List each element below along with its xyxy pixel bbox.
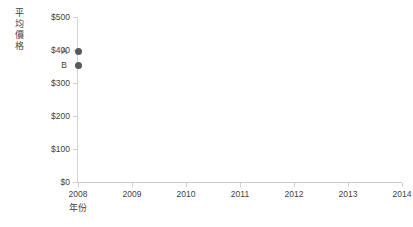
x-axis-tick-mark: [402, 183, 403, 187]
x-axis-tick-label: 2009: [112, 189, 152, 199]
y-axis-tick-label: $0: [26, 178, 70, 187]
data-point[interactable]: [75, 48, 82, 55]
plot-area: AB: [78, 17, 402, 182]
data-point-label: A: [47, 47, 67, 56]
y-axis-tick-label: $200: [26, 112, 70, 121]
x-axis-tick-label: 2011: [220, 189, 260, 199]
x-axis-tick-mark: [348, 183, 349, 187]
x-axis-tick-mark: [240, 183, 241, 187]
x-axis-title: 年份: [55, 203, 101, 214]
x-axis-tick-mark: [186, 183, 187, 187]
data-point[interactable]: [75, 62, 82, 69]
x-axis-tick-label: 2013: [328, 189, 368, 199]
data-point-label: B: [47, 61, 67, 70]
y-axis-tick-label: $100: [26, 145, 70, 154]
x-axis-tick-label: 2010: [166, 189, 206, 199]
scatter-chart: 平均價格 $0$100$200$300$400$500 200820092010…: [0, 0, 413, 227]
y-axis-tick-label: $300: [26, 79, 70, 88]
x-axis-tick-mark: [132, 183, 133, 187]
x-axis-tick-mark: [78, 183, 79, 187]
y-axis-tick-label: $500: [26, 13, 70, 22]
x-axis-tick-mark: [294, 183, 295, 187]
x-axis-tick-label: 2012: [274, 189, 314, 199]
x-axis-tick-label: 2014: [382, 189, 413, 199]
y-axis-title: 平均價格: [11, 8, 27, 52]
x-axis-tick-label: 2008: [58, 189, 98, 199]
